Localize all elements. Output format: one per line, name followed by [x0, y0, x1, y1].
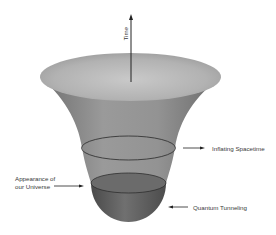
- inflating-spacetime-label: Inflating Spacetime: [212, 145, 265, 153]
- appearance-arrowhead-icon: [79, 184, 84, 187]
- appearance-label-line2: our Universe: [15, 183, 50, 191]
- quantum-tunneling-label: Quantum Tunneling: [193, 204, 247, 212]
- appearance-label-line1: Appearance of: [15, 175, 55, 183]
- funnel-diagram: [0, 0, 276, 235]
- inflating-arrowhead-icon: [200, 146, 205, 149]
- time-label: Time: [122, 27, 130, 41]
- time-arrowhead-icon: [129, 14, 133, 20]
- tunneling-arrowhead-icon: [168, 205, 173, 208]
- appearance-ellipse: [91, 173, 166, 193]
